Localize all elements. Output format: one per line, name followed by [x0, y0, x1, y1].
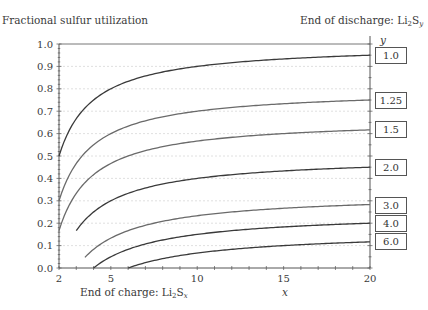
chart-plot: 0.00.10.20.30.40.50.60.70.80.91.02510152…	[0, 0, 428, 310]
series-line-2-0	[76, 167, 370, 230]
y-tick-label: 0.0	[37, 263, 53, 274]
series-line-1-5	[59, 130, 370, 231]
series-line-1-0	[59, 55, 370, 156]
y-tick-label: 1.0	[37, 39, 53, 50]
y-tick-label: 0.9	[37, 61, 53, 72]
x-tick-label: 10	[191, 273, 204, 284]
legend-item-2-0: 2.0	[375, 159, 407, 176]
series-line-1-25	[59, 100, 370, 201]
legend-item-6-0: 6.0	[375, 233, 407, 250]
legend-item-1-5: 1.5	[375, 121, 407, 138]
x-tick-label: 2	[56, 273, 62, 284]
y-tick-label: 0.4	[37, 173, 53, 184]
legend-item-4-0: 4.0	[375, 215, 407, 232]
legend-item-3-0: 3.0	[375, 197, 407, 214]
x-tick-label: 15	[277, 273, 290, 284]
legend-item-1-25: 1.25	[375, 92, 407, 109]
y-tick-label: 0.2	[37, 218, 53, 229]
y-tick-label: 0.7	[37, 106, 53, 117]
x-tick-label: 20	[364, 273, 377, 284]
y-tick-label: 0.3	[37, 195, 53, 206]
y-tick-label: 0.8	[37, 83, 53, 94]
y-tick-label: 0.1	[37, 240, 53, 251]
y-tick-label: 0.5	[37, 151, 53, 162]
x-tick-label: 5	[108, 273, 114, 284]
legend-item-1-0: 1.0	[375, 47, 407, 64]
y-tick-label: 0.6	[37, 128, 53, 139]
